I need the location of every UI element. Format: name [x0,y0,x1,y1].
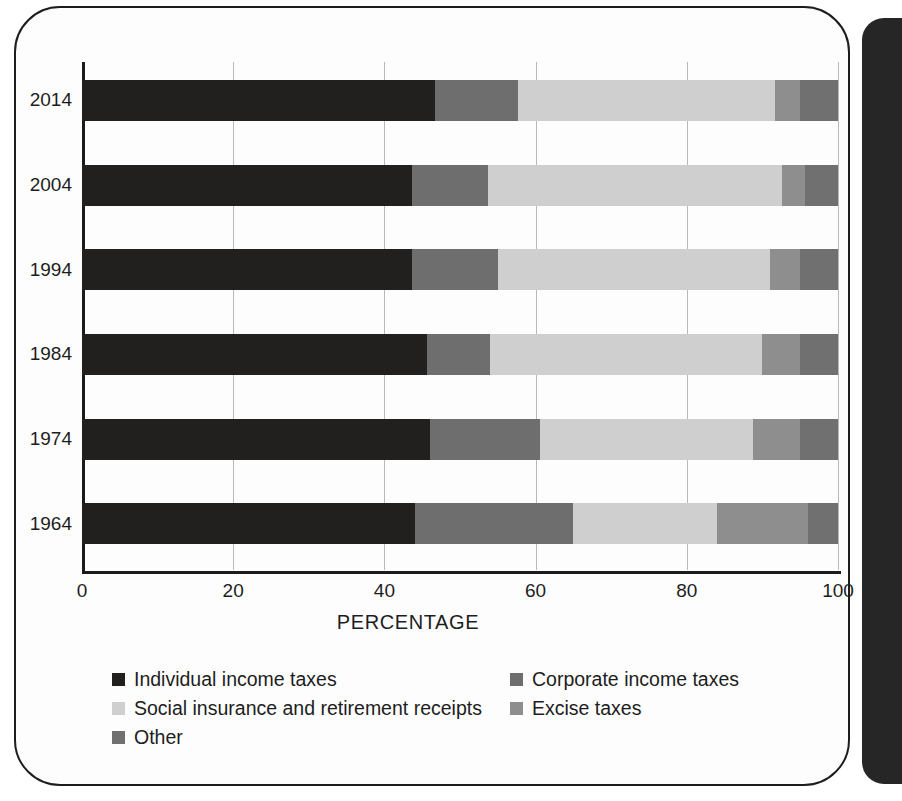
legend-item[interactable]: Social insurance and retirement receipts [112,697,510,720]
bar-row [82,80,838,121]
bar-segment [430,419,540,460]
gridline-40 [384,62,385,570]
bar-segment [800,249,838,290]
legend-item[interactable]: Excise taxes [510,697,641,720]
year-label: 2004 [30,174,72,196]
year-label: 1994 [30,259,72,281]
bar-segment [82,249,412,290]
x-axis-title-text: PERCENTAGE [337,611,479,634]
year-label: 1984 [30,343,72,365]
bar-segment [573,503,717,544]
year-axis-labels: 201420041994198419741964 [0,0,72,801]
bar-segment [82,419,430,460]
bar-row [82,503,838,544]
bar-segment [800,80,838,121]
year-label: 1964 [30,513,72,535]
legend-row: Individual income taxesCorporate income … [112,668,812,691]
legend-row: Social insurance and retirement receipts… [112,697,812,720]
legend-label: Individual income taxes [134,668,337,691]
x-tick-label: 100 [822,580,854,602]
gridline-100 [838,62,839,570]
legend-label: Other [134,726,183,749]
bar-segment [82,334,427,375]
year-label: 1974 [30,428,72,450]
legend-swatch-icon [112,702,125,715]
legend-item[interactable]: Individual income taxes [112,668,510,691]
x-tick-label: 20 [223,580,244,602]
bar-segment [488,165,782,206]
bar-segment [435,80,518,121]
bar-segment [800,334,838,375]
bar-segment [518,80,775,121]
bar-row [82,419,838,460]
bar-row [82,334,838,375]
bar-segment [82,80,435,121]
legend-item[interactable]: Other [112,726,510,749]
bar-segment [412,249,497,290]
legend-item[interactable]: Corporate income taxes [510,668,739,691]
bar-segment [808,503,838,544]
bar-segment [427,334,491,375]
x-tick-label: 40 [374,580,395,602]
bar-segment [498,249,770,290]
gridline-60 [536,62,537,570]
x-axis-title: PERCENTAGE [0,611,882,634]
legend-swatch-icon [510,702,523,715]
bar-row [82,249,838,290]
gridline-80 [687,62,688,570]
bar-segment [805,165,838,206]
legend-label: Excise taxes [532,697,641,720]
bar-segment [82,165,412,206]
bar-segment [717,503,808,544]
bar-segment [782,165,805,206]
bar-segment [770,249,800,290]
chart-legend: Individual income taxesCorporate income … [112,668,812,755]
plot-area [82,62,838,570]
bar-segment [775,80,800,121]
x-axis-line [82,571,841,574]
legend-swatch-icon [510,673,523,686]
legend-label: Social insurance and retirement receipts [134,697,482,720]
legend-row: Other [112,726,812,749]
bar-segment [800,419,838,460]
x-tick-label: 60 [525,580,546,602]
year-label: 2014 [30,89,72,111]
legend-swatch-icon [112,731,125,744]
bar-segment [82,503,415,544]
bar-segment [753,419,800,460]
bar-segment [412,165,488,206]
bar-segment [540,419,753,460]
x-tick-label: 80 [676,580,697,602]
bar-row [82,165,838,206]
legend-label: Corporate income taxes [532,668,739,691]
bar-segment [490,334,762,375]
bar-segment [762,334,800,375]
gridline-20 [233,62,234,570]
legend-swatch-icon [112,673,125,686]
x-tick-label: 0 [77,580,88,602]
bar-segment [415,503,574,544]
